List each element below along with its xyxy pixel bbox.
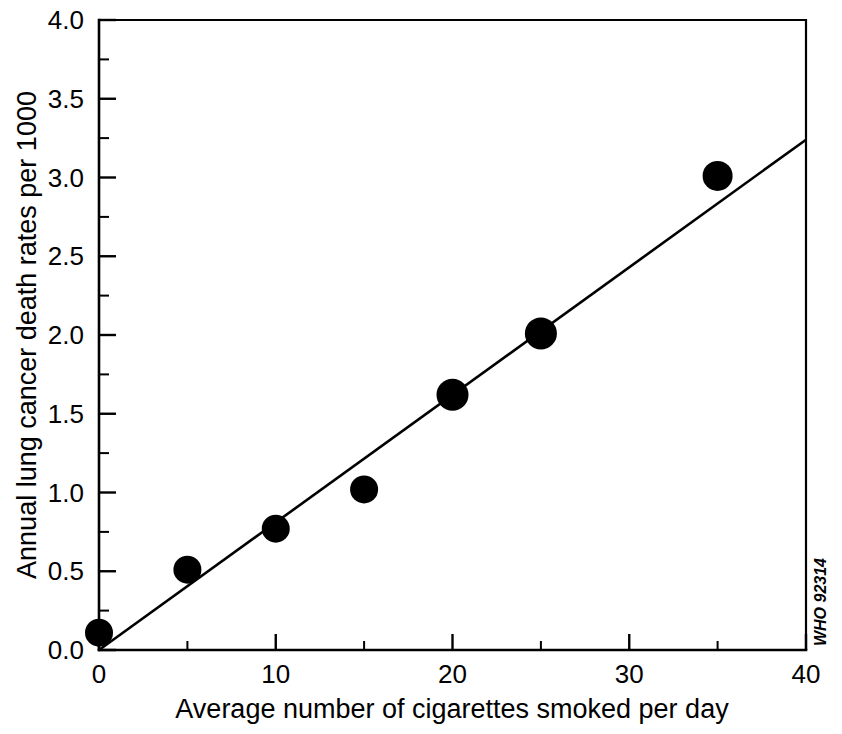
y-axis-title: Annual lung cancer death rates per 1000 (12, 91, 42, 579)
chart-figure: 0.0 0.5 1.0 1.5 2.0 2.5 3.0 3.5 4.0 0 10… (0, 0, 842, 734)
source-note: WHO 92314 (812, 558, 829, 646)
x-axis-tick-labels: 0 10 20 30 40 (92, 659, 821, 689)
y-tick-label: 2.0 (48, 320, 84, 350)
data-point (173, 556, 201, 584)
y-tick-label: 1.0 (48, 478, 84, 508)
y-tick-label: 2.5 (48, 241, 84, 271)
y-axis-major-ticks (99, 20, 116, 650)
x-tick-label: 10 (261, 659, 290, 689)
y-axis-tick-labels: 0.0 0.5 1.0 1.5 2.0 2.5 3.0 3.5 4.0 (48, 5, 84, 665)
x-tick-label: 20 (438, 659, 467, 689)
plot-frame (99, 20, 806, 650)
x-tick-label: 0 (92, 659, 106, 689)
y-tick-label: 1.5 (48, 399, 84, 429)
data-point (85, 619, 113, 647)
data-point (703, 161, 733, 191)
x-tick-label: 30 (615, 659, 644, 689)
data-point-group (85, 161, 733, 647)
y-tick-label: 0.5 (48, 556, 84, 586)
x-axis-title: Average number of cigarettes smoked per … (175, 694, 729, 724)
y-tick-label: 4.0 (48, 5, 84, 35)
y-tick-label: 3.5 (48, 84, 84, 114)
x-axis-major-ticks (99, 634, 806, 650)
data-point (525, 317, 557, 349)
data-point (350, 475, 378, 503)
x-tick-label: 40 (792, 659, 821, 689)
y-tick-label: 0.0 (48, 635, 84, 665)
data-point (262, 515, 290, 543)
y-tick-label: 3.0 (48, 163, 84, 193)
scatter-plot-svg: 0.0 0.5 1.0 1.5 2.0 2.5 3.0 3.5 4.0 0 10… (0, 0, 842, 734)
data-point (437, 379, 469, 411)
